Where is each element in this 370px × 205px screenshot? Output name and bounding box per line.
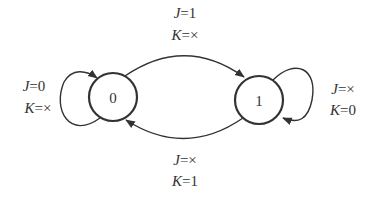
state-1: 1	[235, 76, 283, 124]
self-loop-0-label-k: K=×	[24, 100, 52, 116]
self-loop-1-label-k: K=0	[329, 102, 356, 118]
state-diagram: 0 1 J=1 K=× J=× K=1 J=0 K=× J=× K=0	[0, 0, 370, 205]
transition-1-to-0-label-k: K=1	[171, 173, 198, 189]
transition-0-to-1-label-j: J=1	[174, 5, 197, 21]
state-1-label: 1	[255, 93, 263, 109]
transition-arrow-1-to-0	[126, 118, 243, 139]
state-0-label: 0	[109, 90, 117, 106]
transition-arrow-0-to-1	[125, 56, 244, 77]
self-loop-1-label-j: J=×	[331, 81, 355, 97]
self-loop-0-label-j: J=0	[23, 78, 46, 94]
state-0: 0	[89, 73, 137, 121]
transition-1-to-0-label-j: J=×	[173, 152, 197, 168]
transition-0-to-1-label-k: K=×	[171, 27, 199, 43]
self-loop-arrow-state-0	[60, 72, 100, 126]
